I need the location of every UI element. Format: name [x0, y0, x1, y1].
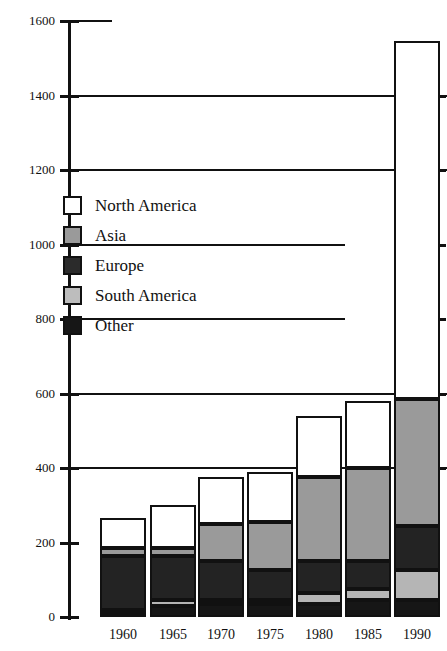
y-tick-label: 1600 [0, 14, 55, 27]
bar-segment-north_america[interactable] [198, 477, 244, 524]
bar-segment-asia[interactable] [345, 468, 391, 561]
bar-segment-asia[interactable] [296, 477, 342, 561]
bar-segment-other[interactable] [150, 606, 196, 617]
legend-item-label: South America [95, 286, 197, 305]
legend-item-label: North America [95, 196, 197, 215]
bar-segment-south_america[interactable] [296, 593, 342, 604]
bar-segment-europe[interactable] [198, 561, 244, 600]
bar-segment-other[interactable] [100, 613, 146, 617]
bar-1965[interactable] [150, 505, 196, 617]
bar-segment-south_america[interactable] [394, 570, 440, 600]
bar-segment-north_america[interactable] [247, 472, 293, 522]
y-tick-label: 600 [0, 387, 55, 400]
y-tick-label: 1400 [0, 89, 55, 102]
bar-segment-europe[interactable] [150, 556, 196, 601]
bar-segment-south_america[interactable] [150, 600, 196, 606]
y-tick-label: 1000 [0, 238, 55, 251]
bar-1990[interactable] [394, 41, 440, 617]
bar-segment-south_america[interactable] [100, 610, 146, 614]
legend-item-north_america[interactable]: North America [63, 190, 197, 220]
bar-segment-europe[interactable] [394, 526, 440, 571]
bar-segment-europe[interactable] [296, 561, 342, 593]
gridline-1200 [68, 169, 447, 171]
bar-segment-other[interactable] [296, 604, 342, 617]
x-tick-label: 1990 [386, 628, 447, 642]
y-tick-label: 0 [0, 610, 55, 623]
y-tick-label: 1200 [0, 163, 55, 176]
bar-1975[interactable] [247, 472, 293, 617]
bar-segment-europe[interactable] [100, 556, 146, 610]
bar-segment-asia[interactable] [198, 524, 244, 561]
legend-item-south_america[interactable]: South America [63, 280, 197, 310]
bar-segment-europe[interactable] [247, 570, 293, 600]
bar-segment-north_america[interactable] [394, 41, 440, 399]
dark-square-swatch [63, 256, 82, 275]
legend-item-asia[interactable]: Asia [63, 220, 197, 250]
y-tick-200 [60, 542, 79, 545]
legend-item-europe[interactable]: Europe [63, 250, 197, 280]
bar-segment-asia[interactable] [394, 399, 440, 526]
bar-segment-north_america[interactable] [345, 401, 391, 468]
bar-segment-other[interactable] [345, 600, 391, 617]
bar-segment-north_america[interactable] [296, 416, 342, 477]
gridline-1400 [68, 95, 447, 97]
bar-segment-south_america[interactable] [198, 600, 244, 604]
gridline-1600 [68, 20, 112, 22]
y-tick-label: 200 [0, 536, 55, 549]
bar-segment-south_america[interactable] [345, 589, 391, 600]
bar-segment-asia[interactable] [100, 548, 146, 555]
bar-segment-other[interactable] [198, 604, 244, 617]
bar-1970[interactable] [198, 477, 244, 617]
bar-segment-north_america[interactable] [150, 505, 196, 548]
black-square-swatch [63, 316, 82, 335]
gridline-600 [68, 393, 447, 395]
stacked-bar-chart: 02004006008001000120014001600 1960196519… [0, 0, 447, 651]
bar-1980[interactable] [296, 416, 342, 617]
legend-item-label: Europe [95, 256, 144, 275]
legend-item-label: Other [95, 316, 134, 335]
y-tick-label: 400 [0, 461, 55, 474]
bar-segment-north_america[interactable] [100, 518, 146, 548]
bar-1960[interactable] [100, 518, 146, 617]
chart-legend: North AmericaAsiaEuropeSouth AmericaOthe… [63, 190, 197, 340]
y-tick-label: 800 [0, 312, 55, 325]
gray-square-swatch [63, 226, 82, 245]
bar-segment-other[interactable] [394, 600, 440, 617]
bar-1985[interactable] [345, 401, 391, 617]
bar-segment-other[interactable] [247, 604, 293, 617]
y-tick-0 [60, 616, 79, 619]
bar-segment-south_america[interactable] [247, 600, 293, 604]
legend-item-label: Asia [95, 226, 126, 245]
white-square-swatch [63, 196, 82, 215]
bar-segment-asia[interactable] [247, 522, 293, 570]
bar-segment-asia[interactable] [150, 548, 196, 555]
legend-item-other[interactable]: Other [63, 310, 197, 340]
bar-segment-europe[interactable] [345, 561, 391, 589]
light-gray-square-swatch [63, 286, 82, 305]
